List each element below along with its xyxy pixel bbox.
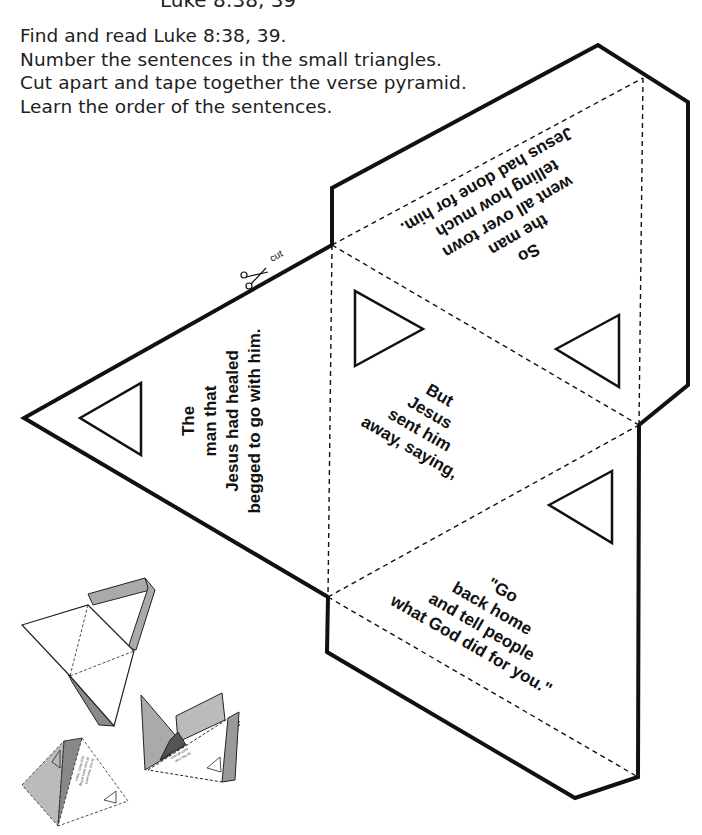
verse-pyramid-diagram: cut The man that Jesus had healed begged… <box>0 0 702 835</box>
face-bottom-right-text: "Go back home and tell people what God d… <box>386 536 586 699</box>
number-triangle-left[interactable] <box>80 383 141 455</box>
scissors-icon <box>241 268 268 289</box>
cut-label: cut <box>268 248 285 264</box>
thumbnail-partially-folded: So the man went all over telling how muc… <box>141 693 240 782</box>
number-triangle-center[interactable] <box>355 291 423 366</box>
svg-text:begged to go with him.: begged to go with him. <box>245 328 264 513</box>
number-triangle-top-right[interactable] <box>556 315 619 387</box>
thumbnail-flat-net <box>22 578 155 726</box>
face-center-text: But Jesus sent him away, saying, <box>358 360 491 483</box>
thumbnail-assembled-pyramid: So the man went all over town telling ho… <box>22 738 128 826</box>
face-left-text: The man that Jesus had healed begged to … <box>179 328 264 513</box>
svg-text:Jesus had healed: Jesus had healed <box>223 350 242 492</box>
number-triangle-bottom-right[interactable] <box>549 471 612 543</box>
svg-text:The: The <box>179 406 198 436</box>
svg-text:man that: man that <box>201 385 220 456</box>
numbering-triangles <box>80 291 619 543</box>
